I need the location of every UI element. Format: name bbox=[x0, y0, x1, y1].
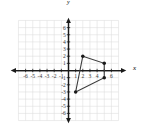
y-tick-label: -5 bbox=[61, 103, 66, 109]
y-tick-label: 6 bbox=[63, 25, 66, 31]
y-tick-label: -6 bbox=[61, 110, 66, 116]
y-tick-label: 4 bbox=[63, 39, 66, 45]
x-tick-label: 1 bbox=[74, 73, 77, 79]
x-tick-label: 4 bbox=[96, 73, 99, 79]
y-tick-label: -2 bbox=[61, 82, 66, 88]
axes bbox=[16, 23, 121, 118]
vertex-point bbox=[81, 54, 85, 58]
x-tick-label: -3 bbox=[45, 73, 50, 79]
y-tick-label: 5 bbox=[63, 32, 66, 38]
vertex-point bbox=[74, 90, 78, 94]
coordinate-plane-svg: -6-5-4-3-2-112346654321-1-2-3-4-5-6 bbox=[0, 0, 144, 136]
y-axis-label: y bbox=[67, 0, 70, 5]
x-axis-label: x bbox=[133, 64, 136, 72]
y-tick-label: -3 bbox=[61, 89, 66, 95]
x-tick-label: -4 bbox=[38, 73, 43, 79]
y-tick-label: 2 bbox=[63, 53, 66, 59]
vertex-point bbox=[103, 62, 107, 66]
x-tick-label: 3 bbox=[89, 73, 92, 79]
y-tick-label: -1 bbox=[61, 75, 66, 81]
x-tick-label: -2 bbox=[52, 73, 57, 79]
coordinate-plane-figure: -6-5-4-3-2-112346654321-1-2-3-4-5-6 x y bbox=[0, 0, 144, 136]
x-tick-label: 6 bbox=[110, 73, 113, 79]
x-tick-label: -5 bbox=[30, 73, 35, 79]
vertex-point bbox=[103, 76, 107, 80]
x-tick-label: 2 bbox=[81, 73, 84, 79]
x-tick-label: -6 bbox=[23, 73, 28, 79]
y-tick-label: 1 bbox=[63, 60, 66, 66]
y-tick-label: -4 bbox=[61, 96, 66, 102]
y-tick-label: 3 bbox=[63, 46, 66, 52]
